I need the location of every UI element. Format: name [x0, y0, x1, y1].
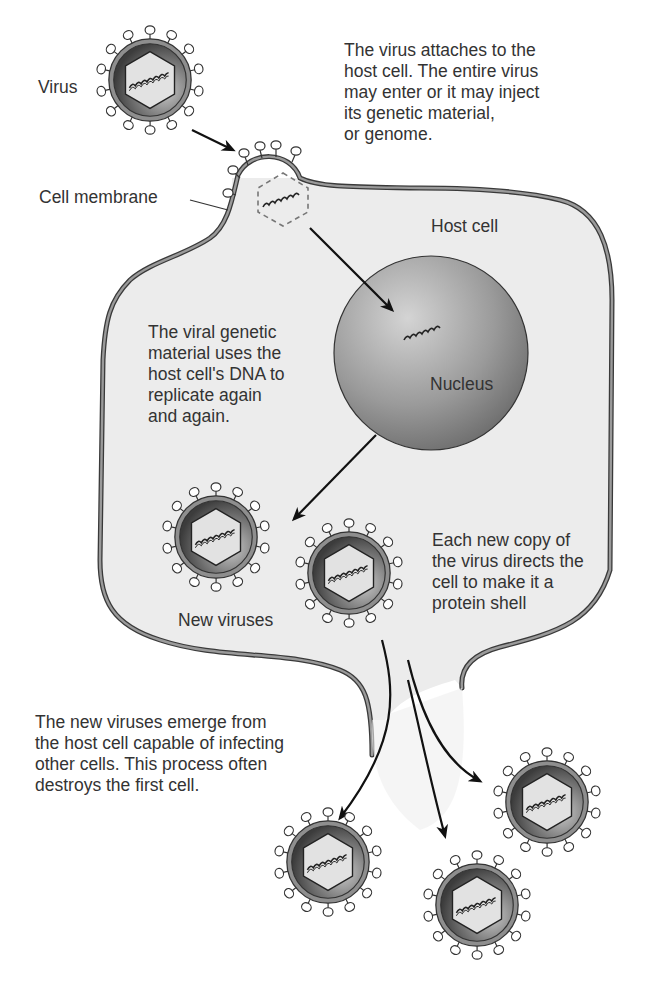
- caption-attach: The virus attaches to the host cell. The…: [344, 40, 539, 145]
- nucleus-label: Nucleus: [430, 374, 493, 395]
- arrow-icon: [192, 130, 233, 150]
- caption-emerge: The new viruses emerge from the host cel…: [35, 712, 284, 796]
- virus-label: Virus: [38, 77, 78, 98]
- cell-membrane-label: Cell membrane: [39, 187, 158, 208]
- caption-replicate: The viral genetic material uses the host…: [148, 322, 285, 427]
- virus-replication-diagram: [0, 0, 662, 986]
- virus-icon: [96, 26, 204, 134]
- nucleus-icon: [334, 256, 528, 450]
- virus-icon: [493, 748, 601, 856]
- virus-icon: [274, 808, 382, 916]
- caption-shell: Each new copy of the virus directs the c…: [432, 530, 584, 614]
- new-viruses-label: New viruses: [178, 610, 273, 631]
- virus-icon: [423, 851, 531, 959]
- host-cell-label: Host cell: [431, 216, 498, 237]
- cell-membrane-leader: [190, 200, 228, 210]
